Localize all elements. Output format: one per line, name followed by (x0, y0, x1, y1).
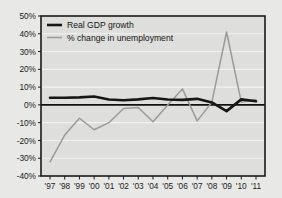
legend-label: Real GDP growth (67, 20, 134, 30)
chart-canvas: 50%40%30%20%10%0%-10%-20%-30%-40% '97'98… (0, 0, 282, 198)
y-tick-label: -30% (17, 153, 37, 163)
y-tick-label: 50% (19, 11, 36, 21)
y-tick-label: -20% (17, 136, 37, 146)
x-tick-label: '04 (148, 181, 159, 191)
y-tick-label: 20% (19, 64, 36, 74)
y-tick-label: 30% (19, 47, 36, 57)
x-tick-label: '02 (118, 181, 129, 191)
x-tick-label: '10 (236, 181, 247, 191)
y-tick-label: -40% (17, 171, 37, 181)
x-tick-label: '00 (89, 181, 100, 191)
y-tick-label: 10% (19, 82, 36, 92)
chart-figure: 50%40%30%20%10%0%-10%-20%-30%-40% '97'98… (0, 0, 282, 198)
x-tick-label: '08 (206, 181, 217, 191)
line-chart-svg: 50%40%30%20%10%0%-10%-20%-30%-40% '97'98… (0, 0, 282, 198)
x-tick-label: '11 (251, 181, 262, 191)
y-tick-label: -10% (17, 118, 37, 128)
x-tick-label: '09 (221, 181, 232, 191)
x-tick-label: '98 (59, 181, 70, 191)
x-tick-label: '97 (45, 181, 56, 191)
x-tick-label: '03 (133, 181, 144, 191)
x-tick-label: '05 (162, 181, 173, 191)
y-tick-label: 0% (24, 100, 37, 110)
x-tick-label: '01 (103, 181, 114, 191)
legend-label: % change in unemployment (67, 33, 174, 43)
x-tick-label: '99 (74, 181, 85, 191)
x-tick-label: '07 (192, 181, 203, 191)
x-tick-label: '06 (177, 181, 188, 191)
y-tick-label: 40% (19, 29, 36, 39)
